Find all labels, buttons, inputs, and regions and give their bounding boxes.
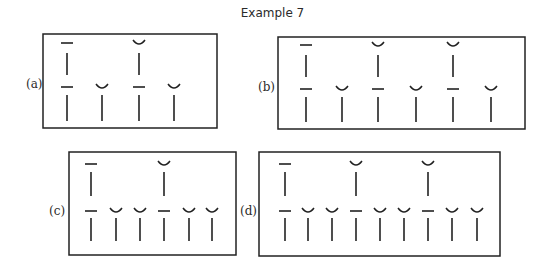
breve-short-mark-icon xyxy=(374,208,386,212)
breve-short-mark-icon xyxy=(133,40,145,44)
breve-short-mark-icon xyxy=(398,208,410,212)
breve-short-mark-icon xyxy=(183,208,195,212)
breve-short-mark-icon xyxy=(110,208,122,212)
breve-short-mark-icon xyxy=(422,161,434,165)
breve-short-mark-icon xyxy=(326,208,338,212)
breve-short-mark-icon xyxy=(350,161,362,165)
panel-box-b xyxy=(278,37,525,129)
breve-short-mark-icon xyxy=(471,208,483,212)
metrical-diagram-canvas xyxy=(0,0,545,268)
breve-short-mark-icon xyxy=(372,42,384,46)
breve-short-mark-icon xyxy=(158,161,170,165)
breve-short-mark-icon xyxy=(96,84,108,88)
breve-short-mark-icon xyxy=(446,208,458,212)
panel-box-a xyxy=(43,34,217,128)
breve-short-mark-icon xyxy=(485,86,497,90)
breve-short-mark-icon xyxy=(134,208,146,212)
breve-short-mark-icon xyxy=(336,86,348,90)
breve-short-mark-icon xyxy=(168,84,180,88)
breve-short-mark-icon xyxy=(447,42,459,46)
breve-short-mark-icon xyxy=(206,208,218,212)
breve-short-mark-icon xyxy=(410,86,422,90)
breve-short-mark-icon xyxy=(302,208,314,212)
panel-box-c xyxy=(69,152,236,255)
